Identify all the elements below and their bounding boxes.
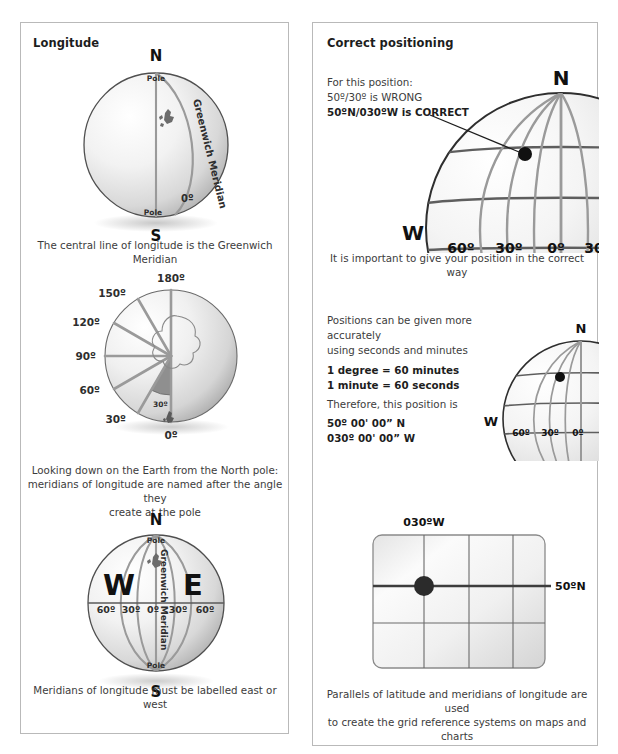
panel-longitude: Longitude [20,22,289,734]
equator-tick-e60: 60º [196,604,215,615]
accuracy-line-2: using seconds and minutes [327,343,487,358]
caption-figure-grid-chart: Parallels of latitude and meridians of l… [321,687,593,743]
callout-line-1: For this position: [327,75,469,90]
small-tick-0: 0º [572,428,583,438]
equator-tick-0: 0º [147,604,159,615]
equator-tick-w30: 30º [122,604,141,615]
minutes-seconds-text-block: Positions can be given more accurately u… [327,313,487,447]
position-latitude-value: 50º 00' 00” N [327,416,487,431]
grid-label-latitude: 50ºN [555,580,586,593]
label-north-pole: Pole [147,74,165,83]
page-title-correct-positioning: Correct positioning [327,36,454,50]
polar-tick-120: 120º [72,316,100,328]
caption-figure-position-globe: It is important to give your position in… [321,251,593,279]
small-tick-60: 60º [512,428,530,438]
equator-tick-e30: 30º [169,604,188,615]
caption-figure-globe-east-west: Meridians of longitude must be labelled … [27,683,283,711]
figure-globe-east-west: N S Pole Pole W E Greenwich Meridian 60º… [53,511,263,701]
position-marker-dot-small [555,372,565,382]
label-south-pole-ew: Pole [147,661,165,670]
callout-text-block: For this position: 50º/30º is WRONG 50ºN… [327,75,469,121]
position-longitude-value: 030º 00' 00” W [327,431,487,446]
panel-correct-positioning: Correct positioning [312,22,598,746]
polar-tick-30: 30º [105,413,126,425]
figure-page: Longitude [0,0,618,754]
minute-seconds-rule: 1 minute = 60 seconds [327,378,487,393]
label-east: E [183,568,203,602]
label-west: W [103,568,135,602]
accuracy-line-3: Therefore, this position is [327,397,487,412]
label-zero-degrees: 0º [181,193,194,204]
label-north-pole-ew: Pole [147,536,165,545]
figure-position-globe-small: N W 60º 30º 0º [468,311,599,461]
label-south-pole: Pole [144,208,162,217]
polar-tick-60: 60º [79,384,100,396]
figure-globe-greenwich: N S Pole Pole 0º Greenwich Meridian [53,45,263,245]
small-tick-30: 30º [541,428,559,438]
chart-background [373,535,545,668]
label-west-position: W [402,221,424,245]
polar-tick-0: 0º [164,429,177,441]
label-north-position: N [553,66,570,90]
polar-tick-180: 180º [157,272,185,284]
degree-minutes-rule: 1 degree = 60 minutes [327,363,487,378]
polar-angle-label: 30º [153,400,168,409]
callout-line-2: 50º/30º is WRONG [327,90,469,105]
figure-polar-view: 180º 150º 120º 90º 60º 30º 0º 30º [53,271,268,446]
figure-grid-chart: 030ºW 50ºN [351,513,571,678]
accuracy-line-1: Positions can be given more accurately [327,313,487,343]
grid-label-longitude: 030ºW [403,516,444,529]
polar-tick-90: 90º [75,350,96,362]
label-north-small: N [576,321,587,336]
polar-tick-150: 150º [98,287,126,299]
callout-line-3: 50ºN/030ºW is CORRECT [327,105,469,120]
label-north: N [150,47,163,65]
grid-position-dot [414,576,434,596]
equator-tick-w60: 60º [97,604,116,615]
label-north-ew: N [150,511,163,529]
label-west-small: W [484,414,498,429]
position-marker-dot [518,147,532,161]
label-greenwich-meridian-ew: Greenwich Meridian [159,549,169,650]
caption-figure-globe-greenwich: The central line of longitude is the Gre… [27,238,283,266]
